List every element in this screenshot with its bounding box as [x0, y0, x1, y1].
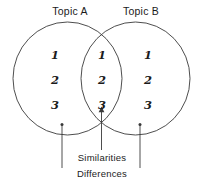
- intersection-item: 3: [94, 98, 110, 112]
- topic-b-label: Topic B: [110, 5, 172, 17]
- topic-a-label: Topic A: [39, 5, 101, 17]
- differences-label: Differences: [53, 168, 151, 179]
- intersection-item: 1: [94, 48, 110, 62]
- left-only-item: 3: [47, 98, 63, 112]
- intersection-item: 2: [94, 73, 110, 87]
- similarities-label: Similarities: [53, 152, 151, 163]
- left-only-item: 2: [47, 73, 63, 87]
- right-only-item: 2: [140, 73, 156, 87]
- left-only-item: 1: [47, 48, 63, 62]
- right-only-item: 3: [140, 98, 156, 112]
- venn-diagram-figure: Topic A Topic B 1 2 3 1 2 3 1 2 3 Simila…: [0, 0, 203, 188]
- right-only-item: 1: [140, 48, 156, 62]
